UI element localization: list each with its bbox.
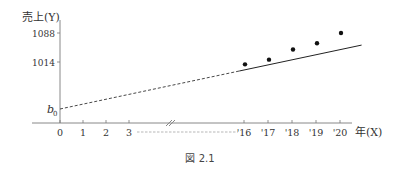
y-axis-label: 売上(Y)	[22, 11, 60, 24]
svg-text:0: 0	[53, 110, 57, 118]
intercept-label: b 0	[47, 103, 57, 118]
y-tick-label: 1014	[32, 58, 55, 68]
x-tick-label: '20	[333, 127, 348, 138]
x-tick-label: '19	[309, 127, 324, 138]
data-point	[339, 31, 343, 35]
data-point	[291, 47, 295, 51]
regression-line	[239, 45, 361, 71]
x-tick-label: 2	[103, 127, 109, 138]
x-tick-label: '18	[285, 127, 300, 138]
x-tick-label: '16	[237, 127, 252, 138]
regression-chart: 売上(Y) 年(X) b 0 図 2.1 10881014 0123'16'17…	[0, 0, 400, 173]
data-point	[267, 57, 271, 61]
x-tick-label: 1	[80, 127, 86, 138]
x-tick-label: 3	[126, 127, 132, 138]
extrapolation-line	[60, 71, 239, 109]
data-point	[243, 62, 247, 66]
x-tick-label: '17	[261, 127, 276, 138]
x-tick-label: 0	[57, 127, 63, 138]
figure-caption: 図 2.1	[185, 153, 214, 164]
x-axis-label: 年(X)	[355, 125, 382, 139]
y-tick-label: 1088	[32, 29, 55, 39]
data-point	[315, 41, 319, 45]
